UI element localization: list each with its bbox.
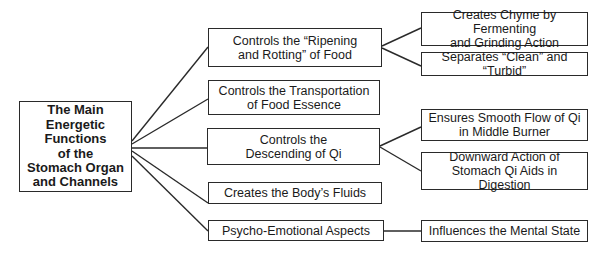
node-line: Descending of Qi xyxy=(246,147,342,161)
root-line: and Channels xyxy=(27,175,124,189)
connector-ripening-separates xyxy=(382,48,421,66)
connector-ripening-chyme xyxy=(382,28,421,46)
node-line: Ensures Smooth Flow of Qi xyxy=(428,111,580,125)
connector-root-ripening xyxy=(132,47,208,141)
node-line: Creates the Body’s Fluids xyxy=(224,186,366,200)
connector-root-psycho xyxy=(132,156,208,231)
node-line: Influences the Mental State xyxy=(429,224,580,238)
root-line: of the xyxy=(27,147,124,161)
connector-root-fluids xyxy=(132,151,208,203)
connector-descending-downward xyxy=(380,147,421,171)
node-line: Stomach Qi Aids in Digestion xyxy=(424,164,585,192)
node-line: Creates Chyme by Fermenting xyxy=(424,8,585,36)
root-line: Stomach Organ xyxy=(27,161,124,175)
node-line: Controls the xyxy=(246,133,342,147)
detail-influences-mental-state: Influences the Mental State xyxy=(421,220,588,242)
function-descending-qi: Controls the Descending of Qi xyxy=(207,128,380,165)
detail-separates-clean-turbid: Separates “Clean” and “Turbid” xyxy=(421,52,588,76)
node-line: Controls the Transportation xyxy=(219,84,370,98)
root-node: The Main Energetic Functions of the Stom… xyxy=(19,101,132,192)
connector-descending-ensures xyxy=(380,127,421,146)
detail-smooth-flow-qi: Ensures Smooth Flow of Qi in Middle Burn… xyxy=(421,109,588,141)
node-line: Psycho-Emotional Aspects xyxy=(222,224,370,238)
function-ripening-rotting: Controls the “Ripening and Rotting” of F… xyxy=(208,28,382,67)
connector-root-transport xyxy=(132,99,208,144)
node-line: of Food Essence xyxy=(219,98,370,112)
detail-creates-chyme: Creates Chyme by Fermenting and Grinding… xyxy=(421,12,588,46)
node-line: and Rotting” of Food xyxy=(233,48,357,62)
node-line: Downward Action of xyxy=(424,150,585,164)
node-line: Controls the “Ripening xyxy=(233,34,357,48)
function-body-fluids: Creates the Body’s Fluids xyxy=(208,182,382,204)
detail-downward-action: Downward Action of Stomach Qi Aids in Di… xyxy=(421,152,588,190)
node-line: in Middle Burner xyxy=(428,125,580,139)
root-line: Functions xyxy=(27,132,124,146)
node-line: and Grinding Action xyxy=(424,36,585,50)
root-line: Energetic xyxy=(27,118,124,132)
node-line: Separates “Clean” and “Turbid” xyxy=(424,50,585,78)
function-transportation: Controls the Transportation of Food Esse… xyxy=(208,80,380,115)
root-line: The Main xyxy=(27,103,124,117)
function-psycho-emotional: Psycho-Emotional Aspects xyxy=(208,220,384,241)
